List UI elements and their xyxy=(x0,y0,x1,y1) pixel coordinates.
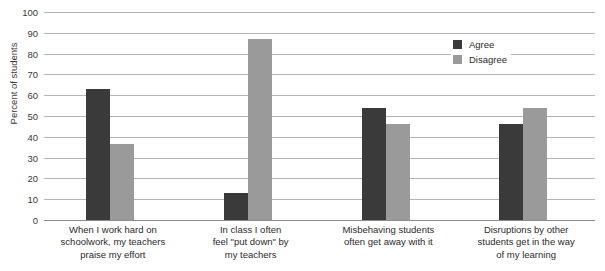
legend-label-agree: Agree xyxy=(469,39,494,50)
y-tick-label-30: 30 xyxy=(8,152,38,163)
y-tick-label-70: 70 xyxy=(8,69,38,80)
category-label: Misbehaving studentsoften get away with … xyxy=(320,224,458,249)
category-label-line: feel "put down" by xyxy=(182,236,320,248)
y-tick-label-100: 100 xyxy=(8,7,38,18)
bar-agree xyxy=(224,193,248,220)
category-label-line: praise my effort xyxy=(44,249,182,261)
bar-disagree xyxy=(110,144,134,220)
gridline-0 xyxy=(44,220,595,221)
x-axis-category-labels: When I work hard onschoolwork, my teache… xyxy=(44,224,595,271)
y-tick-label-0: 0 xyxy=(8,215,38,226)
category-label: When I work hard onschoolwork, my teache… xyxy=(44,224,182,261)
category-label: Disruptions by otherstudents get in the … xyxy=(457,224,595,261)
bar-disagree xyxy=(523,108,547,220)
category-label-line: often get away with it xyxy=(320,236,458,248)
legend-item-agree: Agree xyxy=(453,37,507,52)
category-label-line: students get in the way xyxy=(457,236,595,248)
legend-label-disagree: Disagree xyxy=(469,54,507,65)
y-tick-label-10: 10 xyxy=(8,194,38,205)
bar-agree xyxy=(362,108,386,220)
legend-item-disagree: Disagree xyxy=(453,52,507,67)
bar-group xyxy=(44,12,182,220)
category-label-line: Misbehaving students xyxy=(320,224,458,236)
category-label-line: schoolwork, my teachers xyxy=(44,236,182,248)
bar-group xyxy=(320,12,458,220)
y-tick-label-40: 40 xyxy=(8,131,38,142)
y-tick-label-60: 60 xyxy=(8,90,38,101)
category-label: In class I oftenfeel "put down" bymy tea… xyxy=(182,224,320,261)
bar-agree xyxy=(86,89,110,220)
legend: Agree Disagree xyxy=(451,35,511,69)
bar-agree xyxy=(499,124,523,220)
category-label-line: of my learning xyxy=(457,249,595,261)
legend-swatch-agree-icon xyxy=(453,40,462,49)
plot-area: 1009080706050403020100 xyxy=(44,12,595,220)
category-label-line: my teachers xyxy=(182,249,320,261)
category-label-line: Disruptions by other xyxy=(457,224,595,236)
y-tick-label-50: 50 xyxy=(8,111,38,122)
bar-disagree xyxy=(248,39,272,220)
bar-disagree xyxy=(386,124,410,220)
category-label-line: In class I often xyxy=(182,224,320,236)
bar-chart: Percent of students 10090807060504030201… xyxy=(0,0,605,271)
bar-groups xyxy=(44,12,595,220)
y-axis-title: Percent of students xyxy=(8,24,19,144)
y-tick-label-90: 90 xyxy=(8,27,38,38)
y-tick-label-20: 20 xyxy=(8,173,38,184)
category-label-line: When I work hard on xyxy=(44,224,182,236)
bar-group xyxy=(182,12,320,220)
legend-swatch-disagree-icon xyxy=(453,55,462,64)
y-tick-label-80: 80 xyxy=(8,48,38,59)
